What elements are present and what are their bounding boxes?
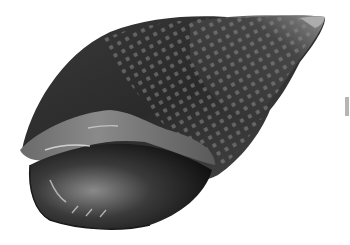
edge-bar [345, 97, 349, 116]
shell-illustration [0, 0, 350, 245]
shell-svg [0, 0, 350, 245]
shell-aperture [30, 144, 212, 229]
